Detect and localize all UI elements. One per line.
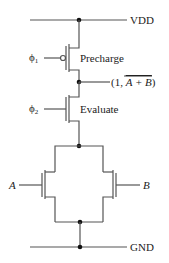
input-a-label: A: [8, 179, 16, 191]
precharge-pmos: [44, 20, 79, 82]
phi2-label: ϕ2: [29, 102, 39, 116]
input-b-label: B: [143, 179, 150, 191]
parallel-top-wire: [55, 146, 103, 172]
gnd-label: GND: [130, 241, 154, 253]
evaluate-label: Evaluate: [80, 103, 119, 115]
nor-gate-diagram: VDD ϕ1 Precharge (1, A + B) ϕ2 Evaluate …: [0, 0, 169, 263]
pmos-bubble: [61, 56, 66, 61]
evaluate-nmos: [44, 82, 79, 146]
vdd-label: VDD: [130, 14, 154, 26]
output-expr: A + B: [125, 76, 152, 88]
phi1-label: ϕ1: [29, 51, 39, 65]
precharge-label: Precharge: [80, 52, 124, 64]
input-a-nmos: [19, 170, 55, 222]
input-b-nmos: [103, 170, 140, 222]
gnd-junction: [78, 245, 83, 250]
output-label: (1, A + B): [111, 76, 156, 89]
